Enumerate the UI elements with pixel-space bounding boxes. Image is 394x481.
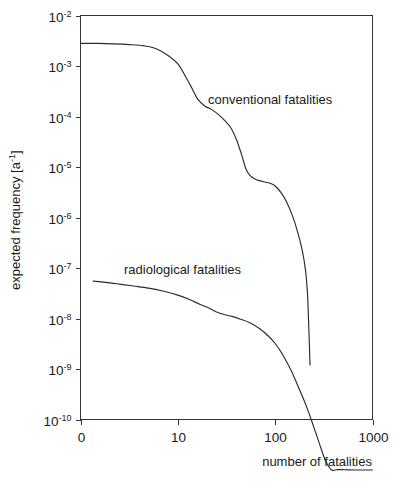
y-tick-label: 10-8 [48, 312, 71, 328]
y-tick-label: 10-2 [48, 9, 71, 25]
y-axis-title-exponent: -1 [7, 154, 17, 162]
series-label-conventional-fatalities: conventional fatalities [208, 92, 333, 107]
series-line-radiological-fatalities [93, 281, 372, 470]
x-axis-tick-labels: 0101001000 [78, 430, 389, 445]
chart-container: 10-210-310-410-510-610-710-810-910-10 01… [0, 0, 394, 481]
svg-text:expected frequency [a-1]: expected frequency [a-1] [7, 150, 23, 290]
y-axis-title-base: expected frequency [a [8, 161, 23, 290]
y-axis-title-tail: ] [8, 150, 23, 154]
y-tick-label: 10-7 [48, 261, 71, 277]
y-tick-label: 10-5 [48, 160, 71, 176]
x-axis-title: number of fatalities [262, 454, 372, 469]
y-tick-label: 10-10 [43, 413, 71, 429]
y-tick-label: 10-4 [48, 110, 71, 126]
x-tick-label: 100 [264, 430, 287, 445]
log-log-frequency-chart: 10-210-310-410-510-610-710-810-910-10 01… [0, 0, 394, 481]
x-tick-label: 1000 [358, 430, 388, 445]
y-tick-label: 10-6 [48, 211, 71, 227]
x-tick-label: 10 [171, 430, 186, 445]
series-label-radiological-fatalities: radiological fatalities [124, 262, 242, 277]
plot-frame [81, 16, 373, 420]
y-axis-ticks [76, 17, 81, 421]
x-axis-ticks [82, 420, 374, 425]
y-axis-title: expected frequency [a-1] [7, 150, 23, 290]
y-tick-label: 10-3 [48, 59, 71, 75]
y-tick-label: 10-9 [48, 362, 71, 378]
y-axis-tick-labels: 10-210-310-410-510-610-710-810-910-10 [43, 9, 71, 429]
x-tick-label: 0 [78, 430, 86, 445]
